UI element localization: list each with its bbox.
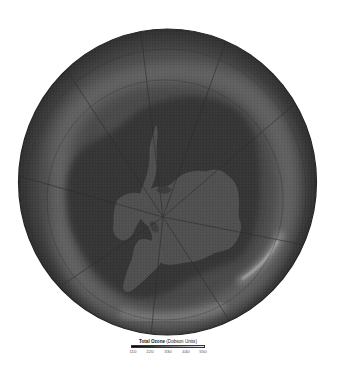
colorbar-tick-label: 220 (146, 349, 153, 354)
colorbar-ticks: 110 220 330 440 550 (130, 349, 206, 355)
colorbar-legend: Total Ozone (Dobson Units) 110 220 330 4… (130, 339, 206, 357)
legend-title-units: (Dobson Units) (166, 339, 197, 344)
colorbar-tick-label: 550 (199, 349, 206, 354)
ozone-map (0, 0, 337, 374)
legend-title-variable: Total Ozone (139, 339, 165, 344)
colorbar-tick-label: 110 (130, 349, 137, 354)
globe (15, 25, 330, 345)
colorbar-tick-label: 440 (182, 349, 189, 354)
colorbar-gradient (131, 345, 205, 348)
legend-title: Total Ozone (Dobson Units) (130, 339, 206, 344)
colorbar-tick-label: 330 (164, 349, 171, 354)
